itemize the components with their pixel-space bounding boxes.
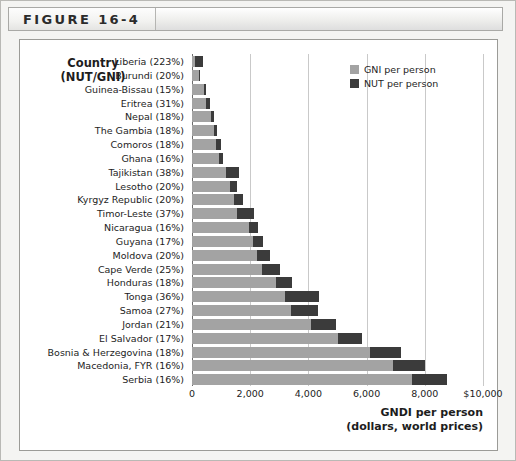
bar-segment-gni: [192, 277, 276, 288]
category-label: Guyana (17%): [116, 234, 184, 249]
legend-item-nut: NUT per person: [350, 78, 438, 89]
stacked-bar: [192, 111, 214, 122]
category-label: Tonga (36%): [125, 289, 184, 304]
stacked-bar: [192, 333, 362, 344]
category-label: Liberia (223%): [114, 54, 184, 69]
bar-segment-gni: [192, 194, 234, 205]
stacked-bar: [192, 181, 237, 192]
bar-row: [192, 151, 483, 166]
bar-row: [192, 165, 483, 180]
bar-segment-nut: [262, 264, 280, 275]
bar-segment-nut: [338, 333, 363, 344]
bar-segment-nut: [216, 139, 220, 150]
bar-rows: [192, 54, 483, 386]
bar-segment-gni: [192, 347, 370, 358]
bar-segment-nut: [204, 84, 206, 95]
bar-segment-nut: [226, 167, 239, 178]
stacked-bar: [192, 236, 263, 247]
bar-segment-gni: [192, 167, 226, 178]
stacked-bar: [192, 153, 223, 164]
stacked-bar: [192, 194, 243, 205]
bar-segment-gni: [192, 319, 311, 330]
bar-row: [192, 206, 483, 221]
stacked-bar: [192, 222, 258, 233]
bar-row: [192, 54, 483, 69]
category-label: Nepal (18%): [125, 109, 184, 124]
category-label: Jordan (21%): [122, 317, 184, 332]
stacked-bar: [192, 84, 206, 95]
stacked-bar: [192, 208, 254, 219]
bar-segment-gni: [192, 236, 253, 247]
bar-row: [192, 68, 483, 83]
bar-row: [192, 82, 483, 97]
x-axis-title: GNDI per person (dollars, world prices): [346, 406, 483, 434]
bar-row: [192, 331, 483, 346]
bar-segment-nut: [285, 291, 319, 302]
bar-segment-nut: [412, 374, 447, 385]
bar-row: [192, 220, 483, 235]
stacked-bar: [192, 139, 221, 150]
bar-segment-gni: [192, 111, 211, 122]
legend-label-nut: NUT per person: [364, 78, 438, 89]
category-label: Serbia (16%): [122, 372, 184, 387]
bar-row: [192, 262, 483, 277]
bar-segment-gni: [192, 139, 216, 150]
stacked-bar: [192, 277, 292, 288]
bar-segment-gni: [192, 84, 204, 95]
bar-segment-nut: [214, 125, 218, 136]
figure-label: FIGURE 16-4: [23, 12, 140, 27]
stacked-bar: [192, 264, 280, 275]
bar-segment-nut: [393, 360, 425, 371]
bar-segment-gni: [192, 360, 393, 371]
figure-header-bar: FIGURE 16-4: [8, 7, 503, 31]
category-label: Guinea-Bissau (15%): [85, 82, 184, 97]
bar-row: [192, 192, 483, 207]
category-label: El Salvador (17%): [99, 331, 184, 346]
bar-segment-nut: [195, 56, 203, 67]
bar-segment-nut: [219, 153, 223, 164]
x-axis-tick-label: 6,000: [353, 388, 380, 399]
bar-segment-gni: [192, 125, 214, 136]
stacked-bar: [192, 291, 319, 302]
legend-label-gni: GNI per person: [364, 64, 436, 75]
bar-segment-gni: [192, 153, 219, 164]
stacked-bar: [192, 56, 203, 67]
category-label: Samoa (27%): [120, 303, 184, 318]
bar-segment-nut: [253, 236, 263, 247]
category-labels: Liberia (223%)Burundi (20%)Guinea-Bissau…: [20, 54, 188, 386]
x-axis-title-line2: (dollars, world prices): [346, 420, 483, 434]
bar-row: [192, 96, 483, 111]
bar-segment-nut: [237, 208, 254, 219]
stacked-bar: [192, 98, 210, 109]
bar-row: [192, 345, 483, 360]
chart-frame: Country (NUT/GNI) Liberia (223%)Burundi …: [19, 39, 498, 451]
bar-segment-nut: [211, 111, 214, 122]
stacked-bar: [192, 360, 425, 371]
category-label: Timor-Leste (37%): [97, 206, 184, 221]
x-axis-tick-label: 4,000: [295, 388, 322, 399]
bar-segment-nut: [257, 250, 270, 261]
category-label: Kyrgyz Republic (20%): [77, 192, 184, 207]
category-label: Lesotho (20%): [115, 179, 184, 194]
bar-segment-gni: [192, 291, 285, 302]
category-label: Comoros (18%): [110, 137, 184, 152]
bar-row: [192, 109, 483, 124]
category-label: Eritrea (31%): [121, 96, 184, 111]
stacked-bar: [192, 374, 447, 385]
bar-segment-nut: [234, 194, 242, 205]
x-axis-tick-label: 8,000: [411, 388, 438, 399]
bar-segment-nut: [199, 70, 200, 81]
stacked-bar: [192, 70, 200, 81]
bar-segment-gni: [192, 264, 262, 275]
bar-segment-nut: [206, 98, 210, 109]
bar-segment-gni: [192, 181, 230, 192]
x-axis-tick-label: $10,000: [463, 388, 502, 399]
bar-segment-nut: [291, 305, 318, 316]
bar-row: [192, 372, 483, 387]
legend-swatch-nut-icon: [350, 79, 359, 88]
bar-segment-gni: [192, 374, 412, 385]
bar-segment-gni: [192, 70, 199, 81]
bar-row: [192, 358, 483, 373]
bar-row: [192, 248, 483, 263]
category-label: Tajikistan (38%): [108, 165, 184, 180]
